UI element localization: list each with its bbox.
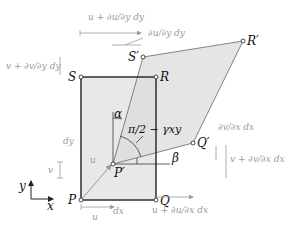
label-Q-prime: Q′ xyxy=(197,136,210,150)
point-R-prime xyxy=(241,39,245,43)
strain-diagram: P Q R S P′ Q′ R′ S′ α β π/2 − γxy dx dy … xyxy=(0,0,291,232)
label-dudy: ∂u/∂y dy xyxy=(148,28,186,38)
point-R xyxy=(154,75,158,79)
label-x-axis: x xyxy=(47,199,54,213)
label-P: P xyxy=(67,193,77,207)
point-P xyxy=(79,198,83,202)
label-gamma: π/2 − γxy xyxy=(127,123,182,136)
label-v-small: v xyxy=(48,165,53,175)
label-beta: β xyxy=(171,151,179,165)
label-alpha: α xyxy=(114,107,122,121)
label-v-plus-dvdy: v + ∂v/∂y dy xyxy=(6,61,61,71)
dudy-leader xyxy=(125,38,143,45)
label-v-plus-dvdx: v + ∂v/∂x dx xyxy=(230,154,285,164)
point-S xyxy=(79,75,83,79)
label-S-prime: S′ xyxy=(128,50,139,64)
label-dvdx: ∂v/∂x dx xyxy=(218,122,254,132)
point-S-prime xyxy=(141,55,145,59)
point-Q-prime xyxy=(191,141,195,145)
label-y-axis: y xyxy=(18,179,26,193)
label-u-plus-dudx: u + ∂u/∂x dx xyxy=(152,205,208,215)
label-R: R xyxy=(159,70,169,84)
label-dx: dx xyxy=(113,206,124,216)
label-u-plus-dudy: u + ∂u/∂y dy xyxy=(88,12,145,22)
label-dy: dy xyxy=(63,136,75,146)
label-u-vector: u xyxy=(90,155,96,165)
label-u-bottom: u xyxy=(92,212,98,222)
point-Q xyxy=(154,198,158,202)
label-R-prime: R′ xyxy=(246,34,259,48)
label-S: S xyxy=(68,70,76,84)
label-P-prime: P′ xyxy=(113,166,125,180)
